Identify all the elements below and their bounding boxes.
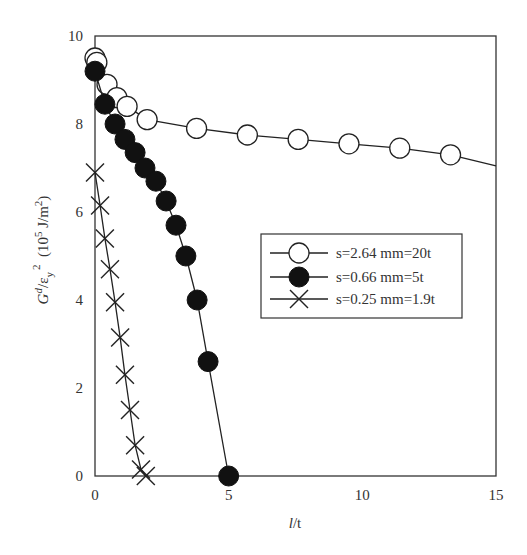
filled-circle-marker: [146, 171, 166, 191]
y-tick-label: 6: [76, 204, 84, 220]
filled-circle-marker: [95, 94, 115, 114]
y-tick-label: 10: [68, 28, 83, 44]
y-axis-label: Gd/εy2 (105 J/m2): [30, 196, 55, 305]
series-filled-circle: [85, 61, 239, 486]
series-open-circle: [85, 48, 496, 166]
filled-circle-marker: [187, 290, 207, 310]
filled-circle-marker: [198, 352, 218, 372]
filled-circle-marker: [166, 215, 186, 235]
x-cross-marker: [126, 436, 144, 454]
legend: s=2.64 mm=20ts=0.66 mm=5ts=0.25 mm=1.9t: [261, 234, 462, 318]
filled-circle-marker: [219, 466, 239, 486]
open-circle-marker: [288, 129, 308, 149]
legend-label: s=2.64 mm=20t: [336, 245, 432, 261]
open-circle-marker: [137, 110, 157, 130]
x-tick-labels: 051015: [91, 487, 503, 503]
series-x-cross: [86, 163, 155, 485]
filled-circle-marker: [176, 246, 196, 266]
x-cross-marker: [111, 328, 129, 346]
filled-circle-marker: [156, 191, 176, 211]
x-cross-marker: [91, 196, 109, 214]
y-tick-labels: 0246810: [68, 28, 84, 484]
x-tick-label: 0: [91, 487, 99, 503]
y-tick-label: 0: [76, 468, 84, 484]
x-cross-marker: [106, 293, 124, 311]
chart: 0246810 051015 s=2.64 mm=20ts=0.66 mm=5t…: [0, 0, 527, 555]
open-circle-marker: [390, 138, 410, 158]
x-tick-label: 10: [355, 487, 370, 503]
open-circle-marker: [237, 125, 257, 145]
legend-entry: s=0.66 mm=5t: [270, 267, 425, 287]
open-circle-marker: [441, 145, 461, 165]
open-circle-marker: [187, 118, 207, 138]
legend-label: s=0.66 mm=5t: [336, 269, 425, 285]
x-tick-label: 5: [225, 487, 233, 503]
filled-circle-marker: [85, 61, 105, 81]
x-cross-marker: [101, 260, 119, 278]
x-axis-label: l/t: [289, 515, 302, 531]
x-cross-marker: [121, 401, 139, 419]
open-circle-marker: [289, 243, 309, 263]
x-cross-marker: [96, 229, 114, 247]
y-tick-label: 2: [76, 380, 84, 396]
legend-entry: s=2.64 mm=20t: [270, 243, 432, 263]
series-line: [95, 172, 146, 476]
y-tick-label: 8: [76, 116, 84, 132]
x-tick-label: 15: [489, 487, 504, 503]
legend-label: s=0.25 mm=1.9t: [336, 291, 436, 307]
open-circle-marker: [339, 134, 359, 154]
filled-circle-marker: [289, 267, 309, 287]
x-cross-marker: [116, 366, 134, 384]
y-tick-label: 4: [76, 292, 84, 308]
open-circle-marker: [117, 96, 137, 116]
